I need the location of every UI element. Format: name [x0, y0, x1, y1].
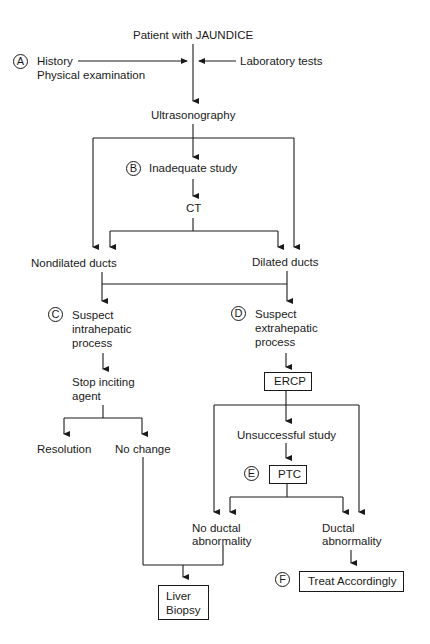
ercp-label: ERCP — [274, 375, 306, 387]
no-ductal-abnormality-line2: abnormality — [192, 535, 251, 549]
treat-accordingly-box: Treat Accordingly — [299, 571, 404, 592]
history-label: History — [37, 55, 73, 69]
liver-biopsy-line1: Liver — [166, 590, 208, 604]
treat-accordingly-label: Treat Accordingly — [308, 575, 396, 587]
ct-node: CT — [186, 202, 201, 216]
ercp-box: ERCP — [264, 372, 312, 391]
marker-b: B — [126, 161, 141, 176]
ptc-box: PTC — [269, 465, 307, 484]
inadequate-study-node: Inadequate study — [149, 162, 237, 176]
marker-f: F — [275, 572, 290, 587]
suspect-intrahepatic-line2: intrahepatic — [72, 323, 131, 337]
marker-d: D — [231, 306, 246, 321]
suspect-intrahepatic-line3: process — [72, 337, 112, 351]
nondilated-ducts-node: Nondilated ducts — [31, 257, 117, 271]
marker-c: C — [48, 307, 63, 322]
marker-e: E — [244, 466, 259, 481]
physical-exam-label: Physical examination — [37, 69, 145, 83]
stop-inciting-line2: agent — [72, 390, 101, 404]
suspect-extrahepatic-line3: process — [255, 336, 295, 350]
suspect-intrahepatic-line1: Suspect — [72, 309, 114, 323]
no-ductal-abnormality-line1: No ductal — [192, 522, 241, 536]
jaundice-flowchart: Patient with JAUNDICE A History Physical… — [0, 0, 430, 644]
dilated-ducts-node: Dilated ducts — [252, 256, 318, 270]
resolution-node: Resolution — [37, 443, 91, 457]
stop-inciting-line1: Stop inciting — [72, 376, 135, 390]
liver-biopsy-line2: Biopsy — [166, 604, 208, 618]
unsuccessful-study-node: Unsuccessful study — [237, 429, 336, 443]
laboratory-tests-label: Laboratory tests — [240, 55, 322, 69]
ultrasonography-node: Ultrasonography — [151, 109, 235, 123]
suspect-extrahepatic-line2: extrahepatic — [255, 322, 318, 336]
ptc-label: PTC — [278, 468, 301, 480]
liver-biopsy-box: Liver Biopsy — [158, 585, 209, 620]
ductal-abnormality-line1: Ductal — [322, 522, 355, 536]
patient-jaundice-node: Patient with JAUNDICE — [133, 29, 253, 43]
marker-a: A — [13, 54, 28, 69]
ductal-abnormality-line2: abnormality — [322, 535, 381, 549]
no-change-node: No change — [115, 443, 171, 457]
suspect-extrahepatic-line1: Suspect — [255, 308, 297, 322]
